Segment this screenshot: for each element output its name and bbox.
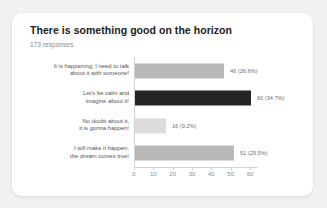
x-tick-label-0: 0 <box>132 171 135 177</box>
x-tick-0 <box>134 167 135 170</box>
x-tick-label-30: 30 <box>189 171 196 177</box>
chart-row: No doubt about it, it is gonna happen! 1… <box>12 112 313 140</box>
x-tick-label-20: 20 <box>169 171 176 177</box>
y-axis-line <box>134 57 135 167</box>
bar-1[interactable] <box>135 91 251 106</box>
x-tick-20 <box>173 167 174 170</box>
bar-value-label-1: 60 (34.7%) <box>257 95 284 101</box>
x-tick-30 <box>192 167 193 170</box>
survey-result-card: There is something good on the horizon 1… <box>12 13 313 196</box>
x-tick-50 <box>231 167 232 170</box>
category-label: It is happening, I need to talk about it… <box>17 63 129 78</box>
chart-row: Let's be calm and imagine about it! 60 (… <box>12 85 313 113</box>
bar-0[interactable] <box>135 63 224 78</box>
bar-chart: It is happening, I need to talk about it… <box>12 57 313 196</box>
x-tick-label-40: 40 <box>208 171 215 177</box>
chart-row: It is happening, I need to talk about it… <box>12 57 313 85</box>
x-tick-40 <box>211 167 212 170</box>
category-label: I will make it happen, the dream comes t… <box>17 146 129 161</box>
bar-2[interactable] <box>135 118 166 133</box>
bar-value-label-0: 46 (26.6%) <box>230 68 257 74</box>
response-count: 173 responses <box>30 40 303 49</box>
x-tick-60 <box>250 167 251 170</box>
chart-row: I will make it happen, the dream comes t… <box>12 140 313 168</box>
card-header: There is something good on the horizon 1… <box>30 24 303 49</box>
x-tick-label-10: 10 <box>150 171 157 177</box>
screenshot-root: There is something good on the horizon 1… <box>0 0 327 208</box>
x-tick-10 <box>153 167 154 170</box>
bar-value-label-3: 51 (29.5%) <box>240 150 267 156</box>
page-title: There is something good on the horizon <box>30 24 303 37</box>
bar-3[interactable] <box>135 146 234 161</box>
category-label: Let's be calm and imagine about it! <box>17 91 129 106</box>
x-tick-label-60: 60 <box>247 171 254 177</box>
x-tick-label-50: 50 <box>227 171 234 177</box>
category-label: No doubt about it, it is gonna happen! <box>17 118 129 133</box>
bar-value-label-2: 16 (9.2%) <box>172 123 196 129</box>
